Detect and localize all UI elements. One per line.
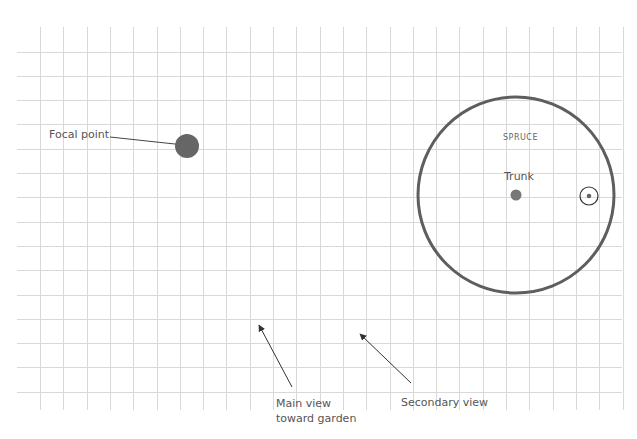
spruce-label: SPRUCE [503, 133, 538, 142]
focal-point-leader-line [110, 137, 184, 145]
trunk-marker[interactable] [511, 190, 522, 201]
focal-point-marker[interactable] [175, 134, 199, 158]
secondary-view-label: Secondary view [401, 396, 488, 409]
focal-point-label: Focal point [49, 128, 109, 141]
grid-lines [17, 27, 624, 410]
site-plan-canvas [0, 0, 637, 439]
trunk-label: Trunk [504, 170, 534, 183]
secondary-view-arrow [360, 334, 411, 383]
main-view-label: Main view toward garden [276, 396, 356, 426]
main-view-arrow [259, 325, 292, 387]
target-marker-center-icon [587, 194, 592, 199]
